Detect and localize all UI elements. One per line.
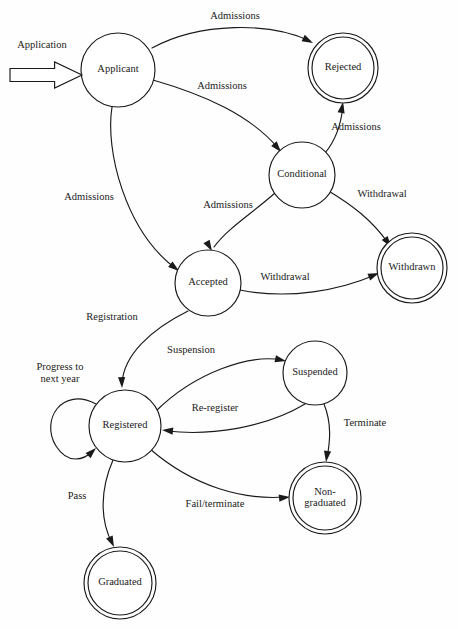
state-label-graduated: Graduated xyxy=(98,576,142,587)
state-label-applicant: Applicant xyxy=(97,63,138,74)
transition-label-t7: Withdrawal xyxy=(260,271,309,282)
transition-label-group-t8: Registration xyxy=(86,311,138,322)
transition-label-group-t14: Progress tonext year xyxy=(37,361,84,384)
state-withdrawn[interactable]: Withdrawn xyxy=(377,233,447,303)
transition-label-group-t10: Re-register xyxy=(192,402,239,413)
state-label-rejected: Rejected xyxy=(325,61,362,72)
transition-arrow-t1 xyxy=(152,28,310,48)
transition-arrow-t12 xyxy=(150,449,285,497)
arrowhead-t1 xyxy=(302,35,315,46)
state-label-suspended: Suspended xyxy=(292,366,338,377)
transition-label-group-t9: Suspension xyxy=(167,344,216,355)
transition-label-t12: Fail/terminate xyxy=(186,498,245,509)
start-arrow-icon xyxy=(10,62,82,88)
arrowhead-t11 xyxy=(322,451,331,463)
transition-label-t13: Pass xyxy=(68,490,87,501)
transition-label-group-t11: Terminate xyxy=(344,417,387,428)
transition-registered-to-graduated xyxy=(103,460,117,549)
transition-label-group-t13: Pass xyxy=(68,490,87,501)
arrowhead-t8 xyxy=(118,377,126,388)
transition-suspended-to-nongraduated xyxy=(322,404,331,463)
transition-label-t1: Admissions xyxy=(210,10,260,21)
state-accepted[interactable]: Accepted xyxy=(175,250,241,316)
state-label-withdrawn: Withdrawn xyxy=(389,261,437,272)
transition-label-t8: Registration xyxy=(86,311,138,322)
transition-arrow-t11 xyxy=(324,404,330,458)
start-marker-layer: Application xyxy=(10,39,82,88)
transition-label-group-t3: Admissions xyxy=(331,121,381,132)
transition-label-group-t4: Admissions xyxy=(64,191,114,202)
transition-label-t3: Admissions xyxy=(331,121,381,132)
state-diagram-canvas: ApplicantRejectedConditionalWithdrawnAcc… xyxy=(0,0,458,629)
state-label-nongraduated: Non- xyxy=(314,486,336,497)
state-applicant[interactable]: Applicant xyxy=(81,33,155,107)
arrowhead-t13 xyxy=(106,536,117,549)
state-registered[interactable]: Registered xyxy=(89,390,161,462)
state-label-registered: Registered xyxy=(103,419,149,430)
transition-label-group-t5: Admissions xyxy=(203,199,253,210)
transition-label-t14: next year xyxy=(41,373,80,384)
state-graduated[interactable]: Graduated xyxy=(84,547,156,619)
state-nongraduated[interactable]: Non-graduated xyxy=(289,462,361,534)
transition-label-t9: Suspension xyxy=(167,344,216,355)
transition-label-t5: Admissions xyxy=(203,199,253,210)
start-transition: Application xyxy=(10,39,82,88)
transition-label-t11: Terminate xyxy=(344,417,387,428)
transition-applicant-to-rejected xyxy=(152,28,315,48)
transition-applicant-to-accepted xyxy=(111,107,182,274)
transition-arrow-t13 xyxy=(103,460,113,543)
transition-label-group-t2: Admissions xyxy=(197,80,247,91)
transition-label-group-t7: Withdrawal xyxy=(260,271,309,282)
transition-label-t4: Admissions xyxy=(64,191,114,202)
transition-arrow-t4 xyxy=(111,107,175,268)
transition-label-t6: Withdrawal xyxy=(357,188,406,199)
states-layer: ApplicantRejectedConditionalWithdrawnAcc… xyxy=(81,33,447,619)
transition-label-t2: Admissions xyxy=(197,80,247,91)
state-suspended[interactable]: Suspended xyxy=(283,341,347,405)
state-rejected[interactable]: Rejected xyxy=(308,33,378,103)
transition-label-t14: Progress to xyxy=(37,361,84,372)
state-label-accepted: Accepted xyxy=(188,276,228,287)
state-label-nongraduated: graduated xyxy=(304,497,346,508)
start-transition-label: Application xyxy=(17,39,67,50)
arrowhead-t10 xyxy=(162,426,174,434)
transition-label-group-t1: Admissions xyxy=(210,10,260,21)
transition-registered-to-nongraduated xyxy=(150,449,290,502)
state-label-conditional: Conditional xyxy=(277,168,327,179)
transition-label-group-t12: Fail/terminate xyxy=(186,498,245,509)
state-conditional[interactable]: Conditional xyxy=(269,142,335,208)
transition-label-group-t6: Withdrawal xyxy=(357,188,406,199)
state-transition-diagram: ApplicantRejectedConditionalWithdrawnAcc… xyxy=(0,0,458,629)
transition-label-t10: Re-register xyxy=(192,402,239,413)
